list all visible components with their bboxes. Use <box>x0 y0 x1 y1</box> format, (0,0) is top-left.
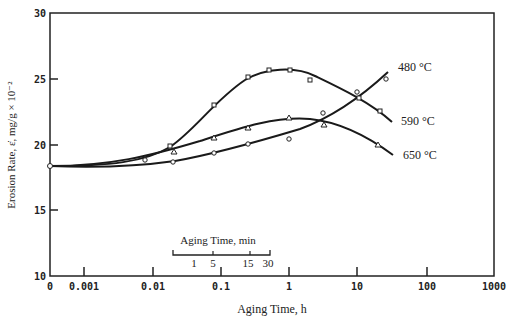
x-tick-labels: 0 0.001 0.01 0.1 1 10 100 1000 <box>47 281 506 292</box>
y-axis-title: Erosion Rate, ε̇, mg/g × 10⁻² <box>5 81 17 209</box>
x-axis-title: Aging Time, h <box>237 302 307 316</box>
svg-text:10: 10 <box>34 271 46 282</box>
svg-text:0.001: 0.001 <box>69 281 99 292</box>
svg-text:20: 20 <box>34 140 46 151</box>
svg-text:480 °C: 480 °C <box>398 60 432 74</box>
erosion-rate-chart: 10 15 20 25 30 0 0.001 0.01 0.1 1 10 100… <box>0 0 510 321</box>
svg-text:5: 5 <box>210 257 216 269</box>
svg-text:1000: 1000 <box>482 281 506 292</box>
svg-text:30: 30 <box>263 257 275 269</box>
y-axis <box>50 79 58 210</box>
curve-650C <box>50 119 393 166</box>
series-labels: 480 °C 590 °C 650 °C <box>398 60 437 162</box>
y-tick-labels: 10 15 20 25 30 <box>34 8 46 282</box>
markers-480C <box>48 77 389 169</box>
inset-minute-axis: Aging Time, min 1 5 15 30 <box>173 234 274 269</box>
svg-text:0.01: 0.01 <box>141 281 165 292</box>
x-axis <box>84 267 427 276</box>
svg-text:30: 30 <box>34 8 46 19</box>
svg-text:1: 1 <box>286 281 292 292</box>
svg-text:100: 100 <box>418 281 436 292</box>
svg-text:650 °C: 650 °C <box>403 148 437 162</box>
svg-text:Aging Time, min: Aging Time, min <box>180 234 256 246</box>
svg-text:15: 15 <box>243 257 255 269</box>
svg-text:15: 15 <box>34 205 46 216</box>
svg-text:590 °C: 590 °C <box>401 114 435 128</box>
svg-text:25: 25 <box>34 74 46 85</box>
svg-text:10: 10 <box>351 281 363 292</box>
svg-text:1: 1 <box>191 257 197 269</box>
plot-frame <box>50 13 494 276</box>
svg-text:0.1: 0.1 <box>212 281 230 292</box>
svg-text:0: 0 <box>47 281 53 292</box>
